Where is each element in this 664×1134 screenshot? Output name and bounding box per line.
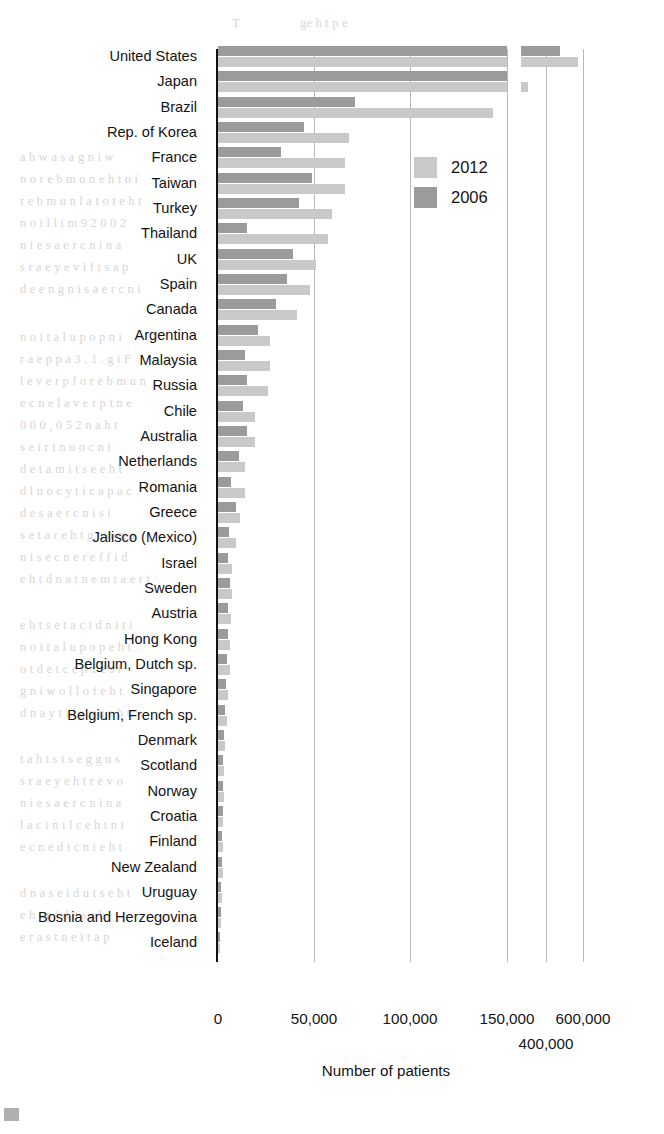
bar-2012 [218, 108, 493, 118]
category-label: Australia [0, 424, 206, 449]
bar-2006 [218, 654, 227, 664]
category-label: Croatia [0, 804, 206, 829]
bar-row [218, 753, 648, 778]
bar-2006 [218, 223, 247, 233]
bar-2006 [218, 857, 222, 867]
bar-2012 [218, 462, 245, 472]
category-label: Japan [0, 69, 206, 94]
bar-2012 [218, 868, 223, 878]
category-label: Brazil [0, 95, 206, 120]
category-label: Argentina [0, 323, 206, 348]
bar-row [218, 373, 648, 398]
chart-legend: 2012 2006 [414, 152, 488, 212]
category-label: UK [0, 247, 206, 272]
bar-row [218, 804, 648, 829]
category-label: Singapore [0, 677, 206, 702]
category-label: Thailand [0, 221, 206, 246]
x-tick-label: 50,000 [291, 1010, 337, 1027]
bar-2012 [218, 589, 232, 599]
bar-2012 [218, 310, 297, 320]
category-label: Denmark [0, 728, 206, 753]
category-label: Sweden [0, 576, 206, 601]
bar-2012 [218, 538, 236, 548]
bar-row [218, 652, 648, 677]
bar-row [218, 95, 648, 120]
bar-row [218, 348, 648, 373]
bar-row [218, 44, 648, 69]
category-label: Russia [0, 373, 206, 398]
category-axis-labels: United StatesJapanBrazilRep. of KoreaFra… [0, 44, 206, 956]
bar-row [218, 779, 648, 804]
bar-2012 [218, 82, 507, 92]
bar-2006 [218, 527, 229, 537]
bar-2012 [218, 260, 316, 270]
bar-2006 [218, 679, 226, 689]
bar-row [218, 728, 648, 753]
bar-row [218, 221, 648, 246]
bar-2012 [218, 361, 270, 371]
category-label: Hong Kong [0, 627, 206, 652]
bar-2012 [218, 412, 255, 422]
bar-2006 [218, 350, 245, 360]
x-axis-title-text: Number of patients [322, 1062, 450, 1079]
category-label: Norway [0, 779, 206, 804]
bar-2012 [218, 842, 223, 852]
bar-2006 [218, 629, 228, 639]
category-label: Spain [0, 272, 206, 297]
bar-2006 [218, 477, 231, 487]
bar-2006 [218, 730, 224, 740]
bar-2006 [218, 831, 222, 841]
bar-2006 [218, 147, 281, 157]
category-label: Bosnia and Herzegovina [0, 905, 206, 930]
bar-2012-upper-segment [521, 82, 528, 92]
bar-2006 [218, 249, 293, 259]
bar-2006 [218, 781, 223, 791]
bar-row [218, 829, 648, 854]
x-tick-label: 0 [214, 1010, 222, 1027]
category-label: Belgium, French sp. [0, 703, 206, 728]
bar-2006 [218, 274, 287, 284]
bar-2012 [218, 893, 222, 903]
bar-2006 [218, 71, 507, 81]
category-label: France [0, 145, 206, 170]
bar-2012 [218, 614, 231, 624]
scan-artifact [4, 1108, 19, 1121]
bar-row [218, 601, 648, 626]
bar-2012 [218, 209, 332, 219]
legend-swatch-2012 [414, 157, 437, 178]
category-label: Malaysia [0, 348, 206, 373]
bar-2006 [218, 451, 239, 461]
legend-item-2006: 2006 [414, 182, 488, 212]
bar-2012 [218, 158, 345, 168]
bar-2012 [218, 766, 224, 776]
bar-2006 [218, 553, 228, 563]
x-axis-title: Number of patients [0, 1062, 664, 1079]
bar-2006 [218, 325, 258, 335]
category-label: Uruguay [0, 880, 206, 905]
x-tick-label: 400,000 [519, 1035, 574, 1052]
plot-area: United StatesJapanBrazilRep. of KoreaFra… [0, 0, 664, 1134]
bar-row [218, 272, 648, 297]
bar-row [218, 576, 648, 601]
category-label: Chile [0, 399, 206, 424]
bar-2006 [218, 173, 312, 183]
bar-2006 [218, 299, 276, 309]
bar-2012 [218, 437, 255, 447]
bar-2006 [218, 932, 220, 942]
legend-label-2012: 2012 [451, 158, 488, 177]
bar-2006 [218, 603, 228, 613]
bar-row [218, 69, 648, 94]
bar-2006 [218, 426, 247, 436]
category-label: Jalisco (Mexico) [0, 525, 206, 550]
bar-2006 [218, 46, 507, 56]
category-label: Canada [0, 297, 206, 322]
bar-2012 [218, 817, 223, 827]
bar-2006 [218, 375, 247, 385]
bar-row [218, 880, 648, 905]
bar-row [218, 500, 648, 525]
category-label: Taiwan [0, 171, 206, 196]
category-label: Iceland [0, 930, 206, 955]
legend-item-2012: 2012 [414, 152, 488, 182]
bar-chart-figure: United StatesJapanBrazilRep. of KoreaFra… [0, 0, 664, 1134]
bar-2012 [218, 943, 220, 953]
